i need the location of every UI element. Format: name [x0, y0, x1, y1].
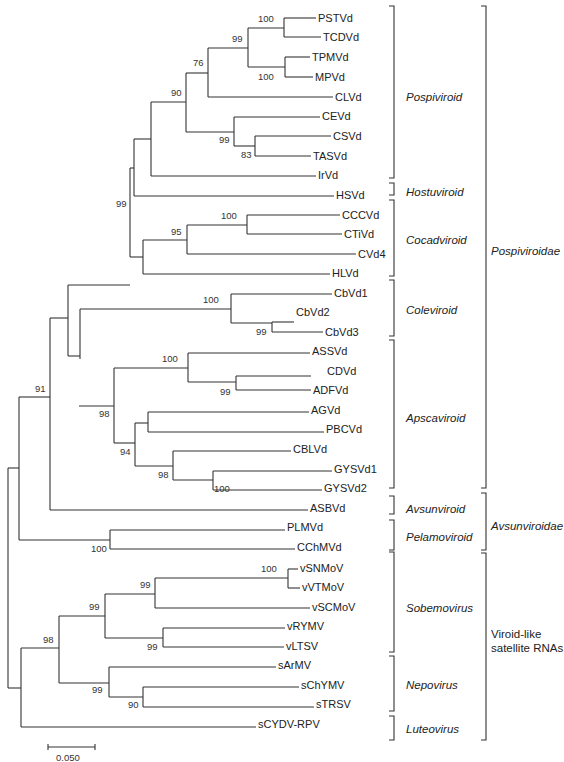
scale-bar-label: 0.050	[56, 752, 80, 762]
bootstrap-value: 100	[258, 71, 274, 82]
family-bracket	[481, 553, 486, 740]
genus-label: Luteovirus	[406, 723, 459, 735]
bootstrap-value: 99	[220, 386, 231, 397]
bootstrap-value: 91	[35, 383, 46, 394]
bootstrap-value: 99	[92, 684, 103, 695]
scale-bar: 0.050	[48, 744, 95, 762]
tip-label: sTRSV	[316, 698, 352, 710]
bootstrap-value: 99	[147, 641, 158, 652]
genus-label: Hostuviroid	[406, 186, 464, 198]
family-bracket	[481, 493, 486, 550]
bootstrap-value: 90	[128, 699, 139, 710]
tip-label: CSVd	[333, 130, 362, 142]
genus-bracket	[389, 496, 394, 514]
bootstrap-value: 99	[256, 326, 267, 337]
bootstrap-values: 1009910076909983991009510099100999894981…	[35, 13, 277, 710]
tip-label: CbVd3	[325, 326, 359, 338]
tip-label: HLVd	[332, 267, 359, 279]
genus-bracket	[389, 552, 394, 652]
bootstrap-value: 99	[140, 579, 151, 590]
tip-label: vRYMV	[287, 620, 325, 632]
genus-label: Avsunviroid	[405, 503, 466, 515]
genus-label: Nepovirus	[406, 679, 458, 691]
tip-label: AGVd	[311, 404, 340, 416]
tip-label: PBCVd	[326, 423, 362, 435]
tip-label: ASBVd	[310, 502, 345, 514]
tip-label: PLMVd	[287, 521, 323, 533]
tip-label: sCYDV-RPV	[258, 718, 320, 730]
phylogenetic-tree: PSTVdTCDVdTPMVdMPVdCLVdCEVdCSVdTASVdIrVd…	[0, 0, 564, 762]
tip-label: MPVd	[315, 71, 345, 83]
genus-bracket	[389, 6, 394, 178]
tip-label: PSTVd	[318, 12, 353, 24]
bootstrap-value: 94	[120, 446, 131, 457]
genus-label: Apscaviroid	[405, 412, 466, 424]
bootstrap-value: 98	[43, 634, 54, 645]
tip-label: ASSVd	[312, 345, 347, 357]
genus-bracket	[389, 520, 394, 550]
bootstrap-value: 99	[116, 198, 127, 209]
family-brackets: PospiviroidaeAvsunviroidaeViroid-likesat…	[481, 6, 563, 740]
genus-label: Pelamoviroid	[406, 531, 473, 543]
tip-label: vSNMoV	[300, 562, 344, 574]
bootstrap-value: 98	[99, 408, 110, 419]
tip-label: CbVd2	[296, 306, 330, 318]
bootstrap-value: 90	[171, 87, 182, 98]
genus-bracket	[389, 280, 394, 336]
bootstrap-value: 100	[214, 483, 230, 494]
tip-label: TPMVd	[312, 51, 349, 63]
family-bracket	[481, 6, 486, 488]
bootstrap-value: 99	[219, 134, 230, 145]
genus-label: Coleviroid	[406, 304, 458, 316]
genus-bracket	[389, 656, 394, 711]
genus-bracket	[389, 183, 394, 195]
family-label: Pospiviroidae	[491, 245, 560, 257]
bootstrap-value: 100	[261, 563, 277, 574]
bootstrap-value: 100	[258, 13, 274, 24]
tip-label: CBLVd	[293, 443, 327, 455]
tip-label: CDVd	[327, 365, 356, 377]
bootstrap-value: 98	[158, 469, 169, 480]
tip-label: GYSVd2	[324, 482, 367, 494]
tip-label: vVTMoV	[302, 581, 345, 593]
bootstrap-value: 100	[203, 294, 219, 305]
genus-brackets: PospiviroidHostuviroidCocadviroidColevir…	[389, 6, 473, 740]
tip-label: CLVd	[335, 91, 362, 103]
tip-label: CEVd	[322, 110, 351, 122]
tip-label: IrVd	[318, 169, 338, 181]
tip-label: HSVd	[336, 189, 365, 201]
genus-bracket	[389, 716, 394, 740]
family-label: satellite RNAs	[491, 642, 563, 654]
tip-label: TASVd	[313, 150, 347, 162]
genus-label: Cocadviroid	[406, 234, 467, 246]
tip-label: CVd4	[358, 248, 386, 260]
genus-bracket	[389, 340, 394, 488]
tip-label: CbVd1	[334, 287, 368, 299]
tip-label: CCCVd	[342, 209, 379, 221]
tip-label: sChYMV	[301, 679, 345, 691]
tip-label: GYSVd1	[334, 463, 377, 475]
tip-label: ADFVd	[313, 384, 348, 396]
bootstrap-value: 83	[241, 149, 252, 160]
genus-bracket	[389, 200, 394, 276]
family-label: Viroid-like	[491, 628, 541, 640]
tip-labels: PSTVdTCDVdTPMVdMPVdCLVdCEVdCSVdTASVdIrVd…	[258, 12, 386, 730]
bootstrap-value: 99	[89, 601, 100, 612]
genus-label: Sobemovirus	[406, 602, 473, 614]
bootstrap-value: 76	[193, 57, 204, 68]
tip-label: sArMV	[278, 659, 312, 671]
bootstrap-value: 100	[221, 210, 237, 221]
tip-label: CTiVd	[344, 228, 374, 240]
tip-label: vLTSV	[286, 640, 319, 652]
tip-label: CChMVd	[297, 541, 342, 553]
bootstrap-value: 100	[162, 353, 178, 364]
bootstrap-value: 99	[232, 33, 243, 44]
genus-label: Pospiviroid	[406, 91, 463, 103]
bootstrap-value: 95	[171, 226, 182, 237]
bootstrap-value: 100	[91, 543, 107, 554]
family-label: Avsunviroidae	[490, 520, 563, 532]
tip-label: vSCMoV	[312, 601, 356, 613]
tip-label: TCDVd	[323, 31, 359, 43]
